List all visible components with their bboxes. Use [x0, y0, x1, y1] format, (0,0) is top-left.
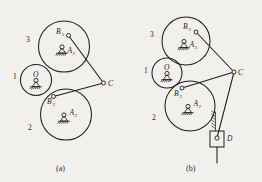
panel-b-label-c: C: [238, 68, 244, 77]
panel-b-label-a3-sub: 3: [195, 45, 198, 50]
panel-b-label-1: 1: [144, 66, 148, 75]
panel-a-label-b2-sub: 2: [53, 102, 56, 107]
panel-b-pivot-a3: [178, 39, 189, 49]
panel-a-label-b3-sub: 3: [62, 32, 65, 37]
panel-a-label-b2: B: [47, 97, 52, 106]
panel-b-caption: (b): [186, 164, 196, 173]
panel-a-pivot-a2: [58, 113, 69, 123]
panel-a-label-c: C: [108, 79, 114, 88]
panel-b-label-b3: B: [183, 22, 188, 31]
panel-b-joint-b3: [194, 30, 198, 34]
panel-b-label-b2-sub: 2: [180, 94, 183, 99]
panel-a-pivot-o: [30, 78, 41, 88]
panel-b-label-a2-sub: 2: [199, 104, 202, 109]
panel-b-joint-c: [232, 70, 236, 74]
panel-b-link-b2-c: [182, 72, 234, 88]
panel-b-joint-b2: [180, 86, 184, 90]
panel-b-pivot-a2: [182, 104, 193, 114]
panel-a-label-3: 3: [26, 35, 30, 44]
panel-b-label-b3-sub: 3: [189, 27, 192, 32]
panel-a-label-1: 1: [13, 72, 17, 81]
panel-a: 3 1 2 B 3 A 3 O B 2 A 2 C (a): [13, 21, 114, 173]
panel-b-label-b2: B: [174, 89, 179, 98]
panel-b-label-o: O: [164, 63, 170, 72]
panel-a-joint-c: [102, 81, 106, 85]
panel-a-joint-b3: [67, 34, 71, 38]
panel-a-link-b3-c: [69, 36, 104, 84]
panel-b-link-b3-c: [196, 32, 234, 72]
panel-a-label-b3: B: [56, 27, 61, 36]
panel-a-label-o: O: [33, 70, 39, 79]
panel-a-label-2: 2: [28, 123, 32, 132]
panel-b-label-3: 3: [150, 30, 154, 39]
mechanism-figure: 3 1 2 B 3 A 3 O B 2 A 2 C (a): [0, 0, 262, 182]
panel-b-joint-d: [215, 136, 219, 140]
panel-b-pivot-o: [161, 71, 172, 81]
panel-b-link-c-d: [217, 72, 234, 138]
panel-a-label-a3-sub: 3: [73, 51, 76, 56]
panel-b-label-2: 2: [152, 113, 156, 122]
panel-a-label-a2-sub: 2: [75, 113, 78, 118]
panel-a-joint-b2: [52, 95, 56, 99]
panel-b: 3 1 2 B 3 A 3 O B 2 A 2 C D (b): [144, 17, 244, 173]
panel-a-pivot-a3: [56, 45, 67, 55]
panel-b-label-d: D: [226, 134, 233, 143]
panel-a-caption: (a): [56, 164, 65, 173]
